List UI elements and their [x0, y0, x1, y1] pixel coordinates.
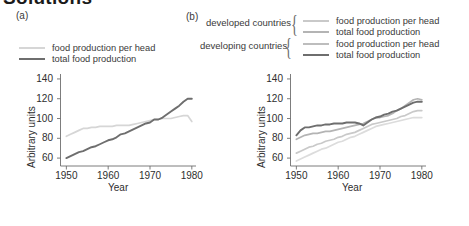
plot-svg [24, 68, 209, 196]
figure-root: Solutions (a) (b) food production per he… [0, 0, 469, 226]
legend-group-developing: developing countries [200, 40, 287, 51]
data-series-line [296, 111, 421, 154]
legend-label: food production per head [52, 43, 155, 53]
legend-item-b-developing-per-head: food production per head [303, 39, 439, 49]
legend-swatch-line-icon [303, 20, 329, 22]
plot-area-b [254, 68, 439, 196]
panel-label-b: (b) [186, 11, 198, 22]
legend-item-b-developed-total: total food production [303, 27, 420, 37]
legend-label: total food production [52, 54, 136, 64]
legend-label: food production per head [336, 39, 439, 49]
brace-developing-icon: { [285, 34, 292, 60]
legend-swatch-line-icon [303, 31, 329, 33]
legend-item-b-developing-total: total food production [303, 50, 420, 60]
legend-swatch-line-icon [303, 43, 329, 45]
legend-label: food production per head [336, 16, 439, 26]
legend-swatch-line-icon [19, 58, 45, 60]
legend-item-b-developed-per-head: food production per head [303, 16, 439, 26]
panel-label-a: (a) [16, 10, 28, 21]
plot-area-a [24, 68, 209, 196]
plot-svg [254, 68, 439, 196]
data-series-line [296, 99, 421, 140]
chart-panel-a: Arbitrary units Year 6080100120140 19501… [24, 68, 204, 198]
data-series-line [66, 116, 191, 137]
legend-swatch-line-icon [19, 47, 45, 49]
legend-item-a-total: total food production [19, 54, 136, 64]
legend-label: total food production [336, 27, 420, 37]
legend-group-developed: developed countries [206, 17, 291, 28]
legend-swatch-line-icon [303, 54, 329, 56]
page-heading: Solutions [3, 0, 92, 9]
chart-panel-b: Arbitrary units Year 6080100120140 19501… [254, 68, 439, 198]
legend-item-a-per-head: food production per head [19, 43, 155, 53]
brace-developed-icon: { [291, 11, 298, 37]
legend-label: total food production [336, 50, 420, 60]
